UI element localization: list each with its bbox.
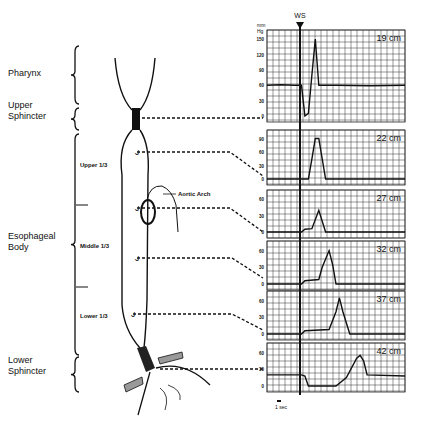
brace-icon bbox=[71, 108, 79, 130]
sensor-marker-icon: ᒍ bbox=[131, 311, 135, 318]
y-tick-label: 0 bbox=[261, 384, 264, 389]
depth-label: 32 cm bbox=[376, 244, 401, 254]
y-tick-label: 60 bbox=[259, 150, 265, 155]
esophagus-illustration bbox=[115, 58, 210, 415]
y-tick-label: 0 bbox=[261, 282, 264, 287]
unit-label: Hg bbox=[257, 28, 264, 34]
y-tick-label: 30 bbox=[259, 367, 265, 372]
y-tick-label: 60 bbox=[259, 197, 265, 202]
y-tick-label: 0 bbox=[261, 230, 264, 235]
aortic-arch-label: Aortic Arch bbox=[178, 191, 211, 197]
pressure-trace bbox=[267, 139, 405, 180]
y-tick-label: 30 bbox=[259, 265, 265, 270]
subregion-label: Lower 1/3 bbox=[80, 313, 108, 319]
sensor-marker-icon: ᒍ bbox=[135, 149, 139, 156]
depth-label: 22 cm bbox=[376, 133, 401, 143]
region-label: Lower bbox=[8, 355, 33, 365]
region-label: Upper bbox=[8, 100, 33, 110]
sensor-marker-icon: ᒍ bbox=[135, 255, 139, 262]
esophageal-manometry-diagram: PharynxUpperSphincterEsophagealBodyLower… bbox=[0, 0, 424, 431]
y-tick-label: 30 bbox=[259, 164, 265, 169]
region-label: Esophageal bbox=[8, 231, 56, 241]
subregion-label: Middle 1/3 bbox=[80, 243, 110, 249]
y-tick-label: 60 bbox=[259, 249, 265, 254]
subregion-label: Upper 1/3 bbox=[80, 162, 108, 168]
depth-label: 42 cm bbox=[376, 346, 401, 356]
region-label: Sphincter bbox=[8, 111, 46, 121]
y-tick-label: 0 bbox=[261, 332, 264, 337]
y-tick-label: 60 bbox=[259, 83, 265, 88]
depth-label: 27 cm bbox=[376, 193, 401, 203]
y-tick-label: 30 bbox=[259, 99, 265, 104]
brace-icon bbox=[71, 46, 79, 104]
arrow-down-icon bbox=[296, 22, 304, 29]
y-tick-label: 30 bbox=[259, 214, 265, 219]
time-scale-label: 1 sec bbox=[275, 404, 287, 410]
swallow-label: WS bbox=[294, 12, 306, 19]
brace-icon bbox=[71, 134, 79, 355]
brace-icon bbox=[71, 357, 79, 392]
region-label: Body bbox=[8, 242, 29, 252]
y-tick-label: 120 bbox=[256, 53, 264, 58]
y-tick-label: 30 bbox=[259, 315, 265, 320]
y-tick-label: 60 bbox=[259, 299, 265, 304]
y-tick-label: 150 bbox=[256, 37, 264, 42]
pressure-trace bbox=[267, 251, 405, 284]
y-tick-label: 0 bbox=[261, 177, 264, 182]
sensor-marker-icon: ᒍ bbox=[135, 205, 139, 212]
sensor-leader-line bbox=[137, 152, 263, 176]
pressure-panel-19cm bbox=[267, 30, 405, 122]
sensor-leader-line bbox=[133, 314, 263, 330]
y-tick-label: 60 bbox=[259, 351, 265, 356]
pressure-trace bbox=[267, 39, 405, 116]
pressure-trace bbox=[267, 355, 405, 386]
depth-label: 19 cm bbox=[376, 33, 401, 43]
region-label: Pharynx bbox=[8, 68, 42, 78]
y-tick-label: 90 bbox=[259, 137, 265, 142]
region-label: Sphincter bbox=[8, 366, 46, 376]
y-tick-label: 0 bbox=[261, 114, 264, 119]
depth-label: 37 cm bbox=[376, 294, 401, 304]
pressure-trace bbox=[267, 210, 405, 232]
sensor-leader-line bbox=[137, 258, 263, 278]
y-tick-label: 90 bbox=[259, 68, 265, 73]
